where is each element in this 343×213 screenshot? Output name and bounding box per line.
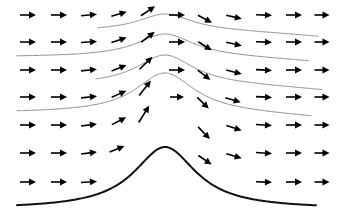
figure-canvas — [0, 0, 343, 213]
figure-background — [0, 0, 343, 213]
flow-over-mountain-figure — [0, 0, 343, 213]
